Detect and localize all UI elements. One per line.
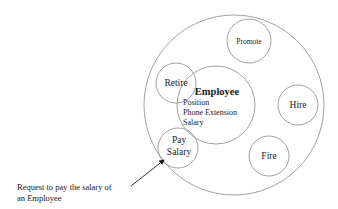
method-hire: Hire [278, 85, 318, 125]
attribute-phone-extension: Phone Extension [183, 108, 237, 117]
method-retire-label: Retire [164, 78, 187, 88]
attribute-salary: Salary [183, 118, 203, 127]
annotation-line1: Request to pay the salary of [17, 182, 112, 192]
method-promote-label: Promote [236, 37, 262, 46]
method-pay-salary-label-line2: Salary [167, 147, 192, 157]
method-fire-label: Fire [261, 151, 276, 161]
employee-object-diagram: Employee Position Phone Extension Salary… [0, 0, 338, 209]
method-pay-salary-label-line1: Pay [172, 135, 187, 145]
method-retire: Retire [156, 63, 196, 103]
method-pay-salary: Pay Salary [158, 128, 198, 168]
request-arrow [131, 160, 164, 186]
employee-data-core: Employee Position Phone Extension Salary [177, 66, 255, 144]
object-name: Employee [195, 86, 240, 97]
request-annotation: Request to pay the salary of an Employee [17, 182, 112, 203]
method-hire-label: Hire [290, 100, 307, 110]
method-fire: Fire [249, 136, 289, 176]
method-promote: Promote [227, 19, 271, 63]
annotation-line2: an Employee [17, 193, 62, 203]
